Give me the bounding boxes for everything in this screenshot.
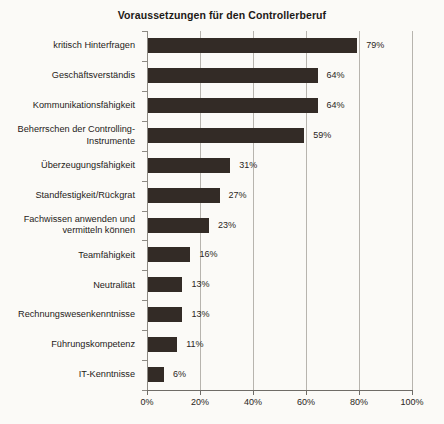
x-axis-tick-label: 0% [140, 397, 153, 407]
bar-value-label: 31% [239, 157, 257, 173]
bar [148, 247, 190, 262]
category-label-line: Überzeugungsfähigkeit [41, 160, 135, 172]
bar [148, 277, 182, 292]
category-label-line: vermitteln können [24, 225, 135, 237]
category-label-line: Teamfähigkeit [78, 250, 135, 262]
bar-value-label: 79% [366, 37, 384, 53]
bar-value-label: 11% [186, 336, 203, 352]
category-label-line: Fachwissen anwenden und [24, 214, 135, 226]
y-axis-tick [142, 31, 147, 32]
category-label-line: Geschäftsverständis [52, 70, 135, 82]
category-label-line: IT-Kenntnisse [79, 369, 135, 381]
bar [148, 367, 164, 382]
category-label-line: Rechnungswesenkenntnisse [18, 309, 135, 321]
category-label: Geschäftsverständis [52, 70, 141, 82]
category-label: Beherrschen der Controlling-Instrumente [18, 124, 141, 147]
bar-slot: 31% [148, 151, 413, 181]
category-label: Überzeugungsfähigkeit [41, 160, 141, 172]
x-axis-tick [306, 390, 307, 395]
x-axis-tick-label: 60% [297, 397, 315, 407]
y-axis-tick [142, 270, 147, 271]
x-axis-tick [253, 390, 254, 395]
bar [148, 307, 182, 322]
chart-title: Voraussetzungen für den Controllerberuf [0, 9, 444, 21]
category-label-slot: Standfestigkeit/Rückgrat [0, 181, 141, 211]
bar-slot: 6% [148, 360, 413, 390]
x-axis-line [147, 390, 413, 391]
category-label: Rechnungswesenkenntnisse [18, 309, 141, 321]
x-axis-tick-label: 20% [191, 397, 209, 407]
category-label-line: Neutralität [93, 280, 135, 292]
category-label: Neutralität [93, 280, 141, 292]
category-label-slot: Kommunikationsfähigkeit [0, 91, 141, 121]
y-axis-tick [142, 360, 147, 361]
category-label-line: Kommunikationsfähigkeit [33, 100, 135, 112]
bar [148, 128, 304, 143]
bar [148, 158, 230, 173]
bar-slot: 13% [148, 270, 413, 300]
category-label: Teamfähigkeit [78, 250, 141, 262]
category-label: IT-Kenntnisse [79, 369, 141, 381]
bar-value-label: 6% [173, 366, 186, 382]
category-label-slot: Fachwissen anwenden undvermitteln können [0, 211, 141, 241]
bar [148, 38, 357, 53]
bar-value-label: 16% [199, 246, 217, 262]
category-label: kritisch Hinterfragen [53, 40, 141, 52]
category-label-slot: Neutralität [0, 270, 141, 300]
bar [148, 68, 318, 83]
category-label-line: kritisch Hinterfragen [53, 40, 135, 52]
bar-slot: 64% [148, 91, 413, 121]
bar-value-label: 59% [313, 127, 331, 143]
category-label-line: Beherrschen der Controlling- [18, 124, 135, 136]
category-label-line: Instrumente [18, 136, 135, 148]
bar-slot: 64% [148, 61, 413, 91]
category-label-slot: Rechnungswesenkenntnisse [0, 300, 141, 330]
category-label-slot: kritisch Hinterfragen [0, 31, 141, 61]
category-label: Führungskompetenz [51, 339, 141, 351]
y-axis-tick [142, 151, 147, 152]
category-label-slot: Überzeugungsfähigkeit [0, 151, 141, 181]
y-axis-tick [142, 181, 147, 182]
bar [148, 218, 209, 233]
category-label-slot: Geschäftsverständis [0, 61, 141, 91]
bar-slot: 16% [148, 240, 413, 270]
y-axis-tick [142, 61, 147, 62]
bar [148, 337, 177, 352]
bar-value-label: 27% [229, 187, 247, 203]
category-label-line: Standfestigkeit/Rückgrat [35, 190, 135, 202]
category-axis-labels: kritisch HinterfragenGeschäftsverständis… [0, 31, 141, 390]
bar-value-label: 23% [218, 217, 236, 233]
category-label-line: Führungskompetenz [51, 339, 135, 351]
bar-slot: 27% [148, 181, 413, 211]
category-label-slot: IT-Kenntnisse [0, 360, 141, 390]
bar-value-label: 13% [191, 306, 209, 322]
bar-slot: 11% [148, 330, 413, 360]
bar [148, 98, 318, 113]
category-label: Fachwissen anwenden undvermitteln können [24, 214, 141, 237]
x-axis-tick-label: 40% [244, 397, 262, 407]
y-axis-tick [142, 330, 147, 331]
category-label-slot: Führungskompetenz [0, 330, 141, 360]
y-axis-tick [142, 91, 147, 92]
bar-slot: 13% [148, 300, 413, 330]
category-label-slot: Beherrschen der Controlling-Instrumente [0, 121, 141, 151]
x-axis-tick [412, 390, 413, 395]
x-axis-tick-label: 80% [350, 397, 368, 407]
x-axis-tick-label: 100% [400, 397, 423, 407]
bar-slot: 23% [148, 211, 413, 241]
category-label: Kommunikationsfähigkeit [33, 100, 141, 112]
bar-slot: 59% [148, 121, 413, 151]
category-label-slot: Teamfähigkeit [0, 240, 141, 270]
x-axis-tick [359, 390, 360, 395]
bar-slot: 79% [148, 31, 413, 61]
bars-container: 79%64%64%59%31%27%23%16%13%13%11%6% [148, 31, 413, 390]
x-axis-tick [200, 390, 201, 395]
bar [148, 188, 220, 203]
y-axis-tick [142, 300, 147, 301]
y-axis-tick [142, 211, 147, 212]
bar-chart-figure: Voraussetzungen für den Controllerberuf … [0, 0, 444, 424]
y-axis-tick [142, 121, 147, 122]
category-label: Standfestigkeit/Rückgrat [35, 190, 141, 202]
x-axis-tick [147, 390, 148, 395]
bar-value-label: 64% [327, 97, 345, 113]
